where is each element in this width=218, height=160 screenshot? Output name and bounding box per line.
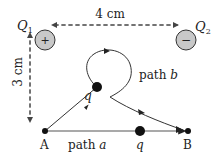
charge-q1-label: Q1 <box>17 18 33 35</box>
path-b-label: path b <box>139 68 178 82</box>
point-a-label: A <box>39 138 49 152</box>
electric-field-diagram: 4 cm 3 cm + Q1 − Q2 path a <box>0 0 218 160</box>
point-b: B <box>183 128 192 152</box>
test-charge-label-a: q <box>136 138 144 152</box>
point-b-label: B <box>183 138 192 152</box>
test-charge-label-b: q <box>84 89 92 103</box>
test-charge-on-path-b: q <box>84 82 102 103</box>
horizontal-dimension: 4 cm <box>52 7 178 25</box>
path-b: path b <box>45 48 183 133</box>
plus-sign-icon: + <box>40 34 49 47</box>
horizontal-distance-label: 4 cm <box>95 7 125 21</box>
vertical-dimension: 3 cm <box>11 33 30 122</box>
test-charge-on-path-a: q <box>135 126 145 152</box>
charge-q2: − Q2 <box>176 19 211 50</box>
charge-q1: + Q1 <box>17 18 55 50</box>
point-a: A <box>39 128 49 152</box>
minus-sign-icon: − <box>181 33 191 47</box>
path-a: path a <box>45 131 183 152</box>
path-a-label: path a <box>68 138 106 152</box>
charge-q2-label: Q2 <box>195 19 211 36</box>
vertical-distance-label: 3 cm <box>11 57 25 87</box>
